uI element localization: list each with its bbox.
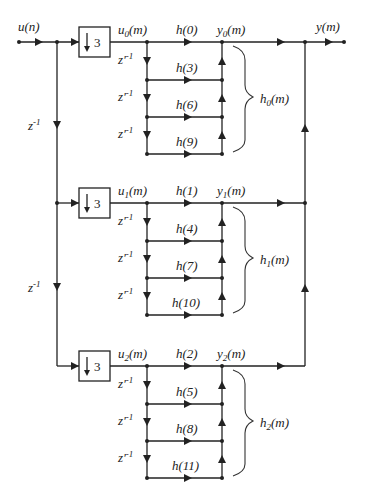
arrow-right-icon (71, 199, 79, 207)
branch-0: 3 u0(m) h(0) h(3) h(6) h(9) y0(m) h0(m) … (79, 22, 305, 158)
arrow-right-icon (35, 38, 43, 46)
branch-delay-label: z'-1 (117, 449, 133, 465)
u-label: u1(m) (118, 183, 147, 200)
arrow-right-icon (277, 362, 285, 370)
h-poly-label: h1(m) (260, 252, 289, 269)
tap-label: h(8) (176, 421, 198, 436)
h-poly-label: h2(m) (260, 415, 289, 432)
y-label: y1(m) (215, 183, 245, 200)
branch-delay-label: z'-1 (117, 125, 133, 141)
arrow-up-icon (218, 455, 226, 463)
y-label: y0(m) (215, 22, 245, 39)
arrow-right-icon (184, 474, 192, 482)
arrow-right-icon (325, 38, 333, 46)
arrow-right-icon (277, 199, 285, 207)
arrow-right-icon (184, 150, 192, 158)
branch-delay-label: z'-1 (117, 412, 133, 428)
input-line (17, 38, 79, 46)
arrow-up-icon (218, 381, 226, 389)
branch-delay-label: z'-1 (117, 88, 133, 104)
arrow-right-icon (184, 113, 192, 121)
decimator-factor: 3 (94, 35, 101, 50)
output-label: y(m) (314, 19, 340, 34)
h-poly-label: h0(m) (260, 91, 289, 108)
decimator-factor: 3 (94, 359, 101, 374)
arrow-right-icon (184, 311, 192, 319)
delay-label-2: z-1 (27, 279, 41, 295)
brace-icon (233, 46, 253, 152)
arrow-up-icon (218, 218, 226, 226)
arrow-right-icon (184, 362, 192, 370)
arrow-right-icon (184, 400, 192, 408)
arrow-down-icon (143, 57, 151, 65)
decimator-factor: 3 (94, 196, 101, 211)
tap-label: h(10) (172, 295, 200, 310)
u-label: u2(m) (118, 346, 147, 363)
tap-label: h(6) (176, 97, 198, 112)
brace-icon (233, 370, 253, 476)
arrow-up-icon (218, 94, 226, 102)
arrow-down-icon (143, 381, 151, 389)
tap-label: h(11) (172, 458, 199, 473)
input-label: u(n) (18, 19, 40, 34)
arrow-right-icon (184, 274, 192, 282)
tap-label: h(2) (176, 346, 198, 361)
sum-node (303, 201, 307, 205)
arrow-down-icon (143, 218, 151, 226)
tap-label: h(9) (176, 134, 198, 149)
tap-label: h(1) (176, 183, 198, 198)
arrow-down-icon (143, 131, 151, 139)
arrow-down-icon (143, 94, 151, 102)
branch-1: 3 u1(m) h(1) h(4) h(7) h(10) y1(m) h1(m)… (79, 183, 305, 319)
branch-delay-label: z'-1 (117, 51, 133, 67)
brace-icon (233, 207, 253, 313)
u-label: u0(m) (118, 22, 147, 39)
arrow-up-icon (218, 57, 226, 65)
arrow-up-icon (218, 131, 226, 139)
arrow-right-icon (71, 38, 79, 46)
branch-delay-label: z'-1 (117, 212, 133, 228)
y-label: y2(m) (215, 346, 245, 363)
output-node (342, 40, 346, 44)
branch-delay-label: z'-1 (117, 375, 133, 391)
tap-label: h(5) (176, 384, 198, 399)
arrow-up-icon (218, 292, 226, 300)
arrow-right-icon (184, 199, 192, 207)
arrow-down-icon (53, 283, 61, 291)
arrow-down-icon (143, 455, 151, 463)
branch-2: 3 u2(m) h(2) h(5) h(8) h(11) y2(m) h2(m)… (79, 346, 305, 482)
arrow-right-icon (71, 362, 79, 370)
output-sum (301, 38, 346, 366)
arrow-up-icon (301, 124, 309, 132)
delay-chain (53, 42, 79, 370)
branch-delay-label: z'-1 (117, 249, 133, 265)
arrow-right-icon (184, 237, 192, 245)
branch-delay-label: z'-1 (117, 286, 133, 302)
down-arrow-icon (84, 370, 90, 376)
arrow-up-icon (301, 284, 309, 292)
arrow-up-icon (218, 418, 226, 426)
arrow-down-icon (53, 121, 61, 129)
arrow-right-icon (184, 76, 192, 84)
tap-label: h(3) (176, 60, 198, 75)
arrow-right-icon (277, 38, 285, 46)
arrow-right-icon (184, 437, 192, 445)
tap-label: h(7) (176, 258, 198, 273)
arrow-down-icon (143, 418, 151, 426)
arrow-down-icon (143, 255, 151, 263)
tap-label: h(4) (176, 221, 198, 236)
down-arrow-icon (84, 207, 90, 213)
down-arrow-icon (84, 46, 90, 52)
arrow-up-icon (218, 255, 226, 263)
delay-label-1: z-1 (27, 117, 41, 133)
arrow-down-icon (143, 292, 151, 300)
arrow-right-icon (184, 38, 192, 46)
tap-label: h(0) (176, 22, 198, 37)
polyphase-diagram: u(n) z-1 z-1 3 (0, 0, 365, 500)
